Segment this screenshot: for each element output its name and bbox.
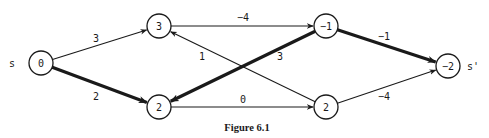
- edge-weight-label: −1: [378, 31, 390, 42]
- node-value-label: 2: [156, 102, 162, 113]
- edge-weight-label: 0: [240, 94, 246, 105]
- edge-n0-n2: [52, 67, 147, 102]
- edge-weight-label: 2: [93, 91, 99, 102]
- figure-caption: Figure 6.1: [224, 122, 269, 133]
- node-value-label: −2: [442, 61, 454, 72]
- node-value-label: 2: [323, 102, 329, 113]
- node-value-label: 3: [156, 21, 162, 32]
- node-value-label: 0: [38, 58, 44, 69]
- node-value-label: −1: [320, 21, 332, 32]
- edge-weight-label: 1: [199, 51, 205, 62]
- source-label: s: [9, 58, 15, 69]
- graph-node-n4: 2: [314, 95, 338, 119]
- sink-label: s': [467, 61, 479, 72]
- edge-weight-label: 3: [277, 51, 283, 62]
- edge-weight-label: −4: [378, 91, 390, 102]
- edge-weight-label: −4: [237, 12, 249, 23]
- graph-node-n5: −2: [436, 54, 460, 78]
- edge-n0-n1: [53, 30, 147, 60]
- graph-node-n3: −1: [314, 14, 338, 38]
- edge-weight-label: 3: [93, 33, 99, 44]
- graph-node-n2: 2: [147, 95, 171, 119]
- graph-node-n1: 3: [147, 14, 171, 38]
- graph-node-n0: 0: [29, 51, 53, 75]
- graph-diagram: 32−4130−1−4 032−12−2 s s' Figure 6.1: [0, 0, 489, 138]
